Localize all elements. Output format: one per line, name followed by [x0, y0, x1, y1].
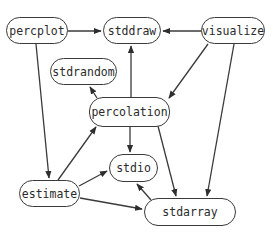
edge-estimate-to-stdarray [80, 198, 142, 209]
node-label: stddraw [108, 24, 156, 38]
node-label: estimate [22, 187, 77, 201]
node-percolation: percolation [89, 97, 170, 127]
node-label: stdarray [162, 205, 217, 219]
node-stdio: stdio [109, 154, 158, 182]
edge-percolation-to-stdarray [158, 126, 176, 196]
node-estimate: estimate [19, 180, 80, 207]
node-visualize: visualize [201, 17, 265, 44]
node-label: percolation [91, 105, 167, 119]
edge-stdarray-to-stdio [137, 184, 151, 200]
edge-estimate-to-percolation [58, 127, 96, 180]
edge-percolation-to-stdrandom [90, 87, 97, 98]
edge-percplot-to-estimate [36, 44, 49, 178]
node-stddraw: stddraw [103, 17, 161, 44]
node-percplot: percplot [6, 17, 68, 44]
dependency-diagram: percplotstddrawvisualizestdrandompercola… [0, 0, 278, 236]
edge-visualize-to-stdarray [207, 44, 234, 196]
node-label: visualize [202, 24, 264, 38]
node-label: stdrandom [52, 65, 114, 79]
edge-visualize-to-percolation [169, 44, 208, 98]
edge-estimate-to-stdio [79, 171, 107, 186]
node-label: percplot [9, 24, 64, 38]
node-stdrandom: stdrandom [50, 58, 117, 85]
node-stdarray: stdarray [144, 198, 236, 226]
node-label: stdio [116, 161, 151, 175]
